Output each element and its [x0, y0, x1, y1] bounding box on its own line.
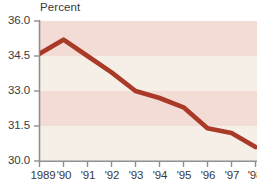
x-tick-label: '97	[225, 169, 240, 181]
x-tick-label: '95	[177, 169, 192, 181]
x-tick-label: '93	[129, 169, 144, 181]
x-tick-label: 1989	[30, 169, 55, 181]
x-axis-labels: 1989 '90 '91 '92 '93 '94 '95 '96 '97 '98	[0, 0, 257, 191]
x-tick-label: '96	[201, 169, 216, 181]
x-tick-label: '98	[248, 169, 257, 181]
x-tick-label: '90	[57, 169, 72, 181]
x-tick-label: '91	[81, 169, 96, 181]
x-tick-label: '92	[105, 169, 120, 181]
x-tick-label: '94	[153, 169, 168, 181]
percent-line-chart: Percent	[0, 0, 257, 191]
